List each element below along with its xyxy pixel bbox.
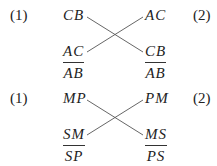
label-1: (1) (10, 8, 28, 23)
denominator: SP (65, 146, 84, 164)
cross-lines (0, 0, 217, 83)
top-left-term: CB (63, 8, 84, 23)
cross-lines (0, 83, 217, 166)
bottom-right-fraction: CB AB (145, 44, 166, 81)
label-1: (1) (10, 91, 28, 106)
bottom-left-fraction: SM SP (63, 127, 85, 164)
numerator: AC (63, 44, 84, 63)
denominator: AB (145, 63, 165, 81)
cross-multiplication-block-2: (1) MP PM (2) SM SP MS PS (0, 83, 217, 166)
cross-multiplication-block-1: (1) CB AC (2) AC AB CB AB (0, 0, 217, 83)
label-2: (2) (193, 91, 211, 106)
numerator: MS (145, 127, 167, 146)
top-left-term: MP (63, 91, 87, 106)
label-2: (2) (193, 8, 211, 23)
bottom-right-fraction: MS PS (145, 127, 167, 164)
numerator: CB (145, 44, 166, 63)
denominator: PS (147, 146, 166, 164)
numerator: SM (63, 127, 85, 146)
denominator: AB (63, 63, 83, 81)
top-right-term: PM (145, 91, 169, 106)
bottom-left-fraction: AC AB (63, 44, 84, 81)
top-right-term: AC (145, 8, 166, 23)
